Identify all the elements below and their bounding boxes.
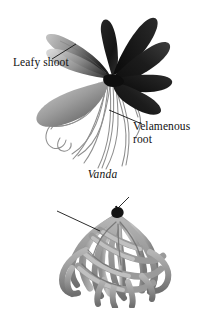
leader-inflorescence-shoot: [117, 197, 129, 209]
label-velamenous-root-line2: root: [133, 133, 152, 145]
polyradicion-root-mass: [62, 218, 168, 307]
polyradicion-illustration: [0, 188, 205, 308]
inflorescence-shoot-nub: [111, 206, 123, 218]
label-velamenous-root: Velamenous root: [133, 120, 190, 145]
panel-vanda: Leafy shoot Velamenous root Vanda: [0, 0, 205, 188]
label-leafy-shoot: Leafy shoot: [13, 56, 69, 69]
caption-vanda: Vanda: [0, 168, 205, 180]
label-velamenous-root-line1: Velamenous: [133, 120, 190, 132]
orchid-root-figure: Leafy shoot Velamenous root Vanda: [0, 0, 205, 330]
leaf-lower-left: [36, 80, 110, 127]
leader-photosynthetic-root: [57, 211, 100, 231]
panel-polyradicion: Photosynthetic root Inflorescenceshoot P…: [0, 188, 205, 330]
